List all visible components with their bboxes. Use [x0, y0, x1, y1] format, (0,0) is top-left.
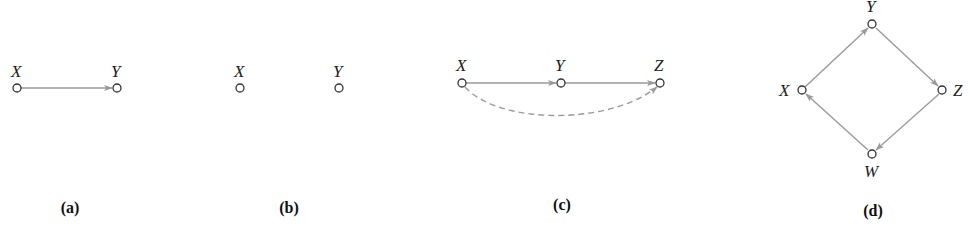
caption-c: (c) [553, 196, 571, 214]
edge-x-to-y [805, 28, 868, 87]
label-w: W [864, 162, 880, 181]
node-x [236, 84, 244, 92]
caption-b: (b) [279, 199, 299, 217]
node-x [798, 86, 806, 94]
node-x [458, 79, 466, 87]
label-x: X [455, 56, 467, 75]
panel-a: X Y (a) [10, 62, 122, 217]
caption-d: (d) [863, 202, 883, 220]
edge-z-to-w [876, 94, 939, 150]
label-z: Z [654, 56, 664, 75]
caption-a: (a) [61, 199, 80, 217]
node-y [868, 20, 876, 28]
edge-x-to-z-dashed [465, 87, 657, 116]
label-z: Z [953, 81, 963, 100]
panel-b: X Y (b) [233, 62, 344, 217]
causal-diagrams: X Y (a) X Y (b) X Y Z (c) Y Z W X [0, 0, 980, 232]
node-y [113, 84, 121, 92]
node-z [938, 86, 946, 94]
panel-c: X Y Z (c) [455, 56, 664, 214]
edge-w-to-x [806, 94, 868, 150]
label-x: X [233, 62, 245, 81]
node-w [868, 150, 876, 158]
label-y: Y [333, 62, 344, 81]
label-y: Y [111, 62, 122, 81]
label-y: Y [866, 0, 877, 16]
label-x: X [10, 62, 22, 81]
node-x [13, 84, 21, 92]
node-y [557, 79, 565, 87]
edge-y-to-z [876, 28, 938, 86]
panel-d: Y Z W X (d) [778, 0, 963, 220]
label-y: Y [555, 56, 566, 75]
label-x: X [778, 81, 790, 100]
node-z [656, 79, 664, 87]
node-y [335, 84, 343, 92]
